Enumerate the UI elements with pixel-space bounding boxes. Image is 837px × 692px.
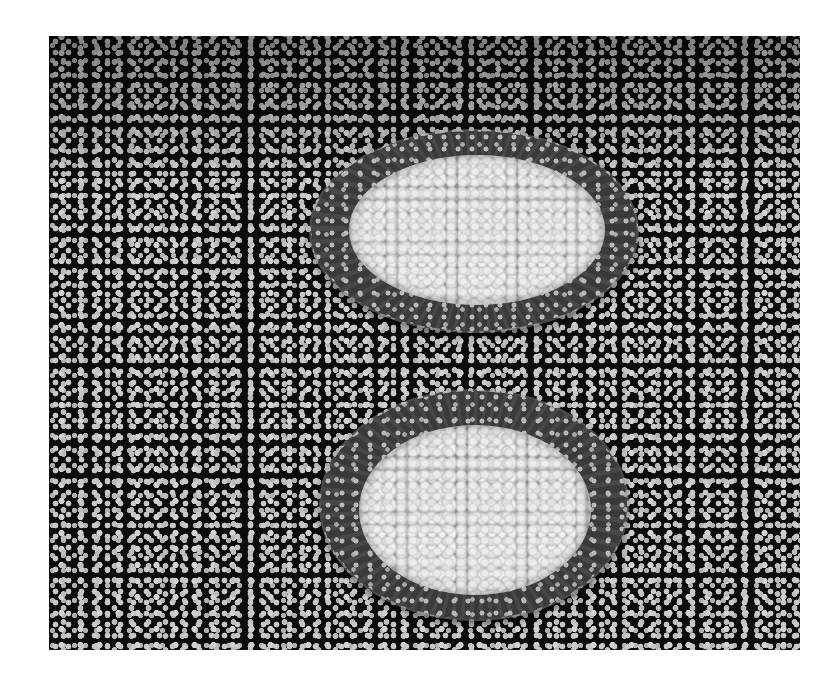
corn-kernels-top <box>349 155 605 305</box>
corn-kernels-bottom <box>359 425 591 595</box>
glass-plate-top <box>311 131 637 331</box>
photograph: Grayscale photograph of two glass plates… <box>49 36 800 650</box>
glass-plate-bottom <box>321 391 627 619</box>
